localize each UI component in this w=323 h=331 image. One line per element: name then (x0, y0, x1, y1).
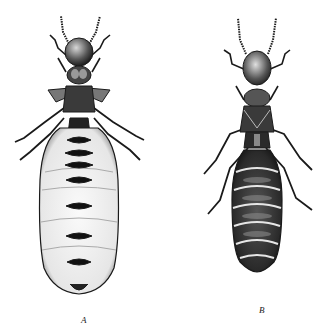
label-b: B (259, 305, 265, 315)
termite-a (15, 16, 144, 294)
termite-b (204, 18, 312, 272)
termite-illustration: A B (0, 0, 323, 331)
label-a: A (80, 315, 87, 325)
